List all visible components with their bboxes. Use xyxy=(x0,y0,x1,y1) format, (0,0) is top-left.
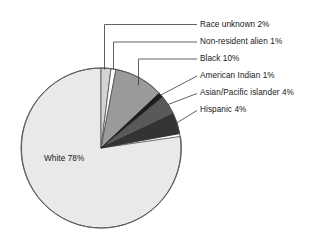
pie-label-black: Black 10% xyxy=(200,54,239,63)
leader-line-asian-pacific-islander xyxy=(168,94,197,105)
pie-label-asian-pacific-islander: Asian/Pacific islander 4% xyxy=(200,88,294,97)
pie-label-non-resident-alien: Non-resident alien 1% xyxy=(200,37,282,46)
pie-label-american-indian: American Indian 1% xyxy=(200,71,275,80)
pie-label-hispanic: Hispanic 4% xyxy=(200,105,246,114)
pie-chart: Race unknown 2% Non-resident alien 1% Bl… xyxy=(0,0,323,247)
pie-label-race-unknown: Race unknown 2% xyxy=(200,20,269,29)
pie-label-white: White 78% xyxy=(44,154,84,163)
leader-line-race-unknown xyxy=(105,25,198,70)
leader-line-american-indian xyxy=(161,76,197,95)
leader-line-hispanic xyxy=(177,111,198,124)
pie-slices xyxy=(21,68,181,228)
leader-line-black xyxy=(139,59,198,86)
leader-line-non-resident-alien xyxy=(114,42,198,69)
